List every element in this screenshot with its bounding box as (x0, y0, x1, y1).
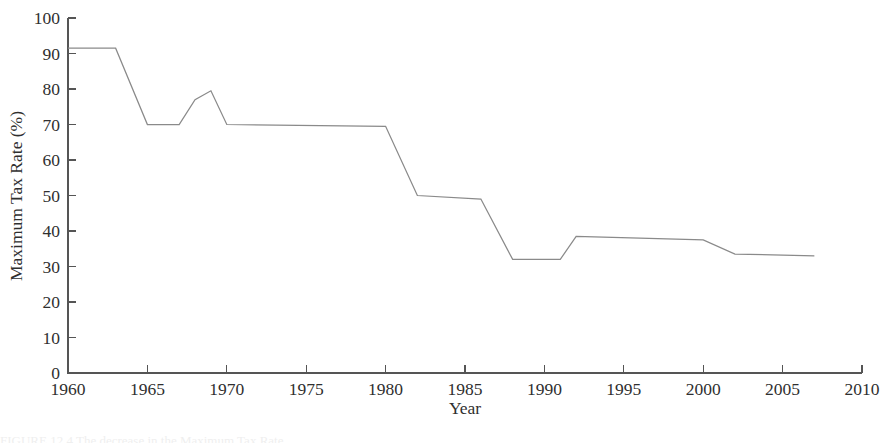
x-tick-label: 1960 (51, 379, 86, 399)
tax-rate-line-chart: 0102030405060708090100196019651970197519… (0, 0, 891, 443)
x-tick-label: 1965 (130, 379, 165, 399)
data-series-line (68, 48, 814, 259)
y-tick-label: 30 (43, 257, 61, 277)
x-tick-label: 1995 (606, 379, 641, 399)
x-tick-label: 1990 (527, 379, 562, 399)
y-tick-label: 60 (43, 150, 61, 170)
chart-ticks (68, 18, 862, 373)
y-tick-label: 80 (43, 79, 61, 99)
x-tick-label: 1970 (209, 379, 244, 399)
x-axis-title: Year (449, 398, 481, 418)
figure-caption: FIGURE 12.4 The decrease in the Maximum … (0, 434, 891, 443)
x-tick-label: 2010 (845, 379, 880, 399)
chart-series (68, 48, 814, 259)
y-tick-label: 20 (43, 292, 61, 312)
chart-axes (68, 18, 862, 373)
x-tick-label: 1980 (368, 379, 403, 399)
y-tick-label: 70 (43, 115, 61, 135)
figure-container: 0102030405060708090100196019651970197519… (0, 0, 891, 443)
y-tick-label: 10 (43, 328, 61, 348)
x-tick-label: 1985 (448, 379, 483, 399)
y-tick-label: 90 (43, 44, 61, 64)
y-tick-label: 50 (43, 186, 61, 206)
x-tick-label: 2005 (765, 379, 800, 399)
y-tick-label: 40 (43, 221, 61, 241)
y-tick-label: 100 (34, 8, 61, 28)
x-tick-label: 1975 (289, 379, 324, 399)
chart-tick-labels: 0102030405060708090100196019651970197519… (34, 8, 880, 399)
y-axis-title: Maximum Tax Rate (%) (6, 111, 26, 281)
x-tick-label: 2000 (686, 379, 721, 399)
